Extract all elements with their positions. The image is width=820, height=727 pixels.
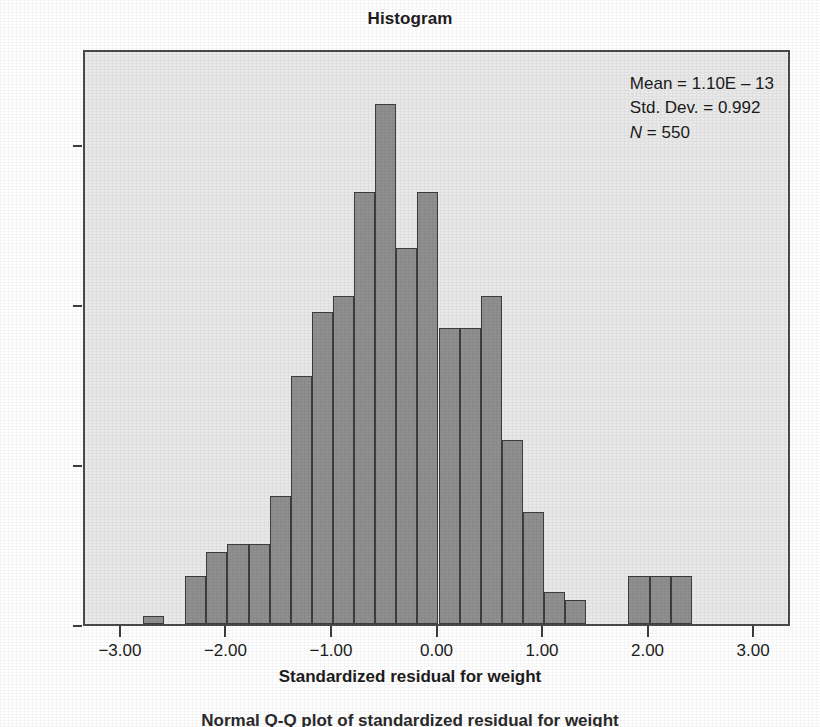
- x-tick-label: 1.00: [497, 641, 587, 661]
- x-tick-mark: [436, 626, 438, 637]
- histogram-bar: [565, 600, 586, 624]
- x-tick-mark: [330, 626, 332, 637]
- plot-frame: Mean = 1.10E – 13 Std. Dev. = 0.992 N = …: [83, 50, 790, 626]
- y-tick-mark: [73, 305, 82, 307]
- y-tick-mark: [73, 465, 82, 467]
- histogram-bar: [270, 496, 291, 624]
- x-tick-mark: [752, 626, 754, 637]
- x-tick-label: 0.00: [392, 641, 482, 661]
- statistics-annotation: Mean = 1.10E – 13 Std. Dev. = 0.992 N = …: [630, 72, 774, 145]
- x-tick-label: −2.00: [180, 641, 270, 661]
- histogram-bar: [249, 544, 270, 624]
- x-tick-mark: [119, 626, 121, 637]
- chart-title: Histogram: [0, 9, 820, 29]
- histogram-bar: [417, 192, 438, 624]
- histogram-bar: [439, 328, 460, 624]
- x-axis-label: Standardized residual for weight: [0, 667, 820, 687]
- x-tick-mark: [224, 626, 226, 637]
- histogram-bar: [227, 544, 248, 624]
- x-tick-label: −1.00: [286, 641, 376, 661]
- histogram-bar: [650, 576, 671, 624]
- x-tick-label: −3.00: [75, 641, 165, 661]
- histogram-bar: [291, 376, 312, 624]
- histogram-bar: [671, 576, 692, 624]
- y-tick-mark: [73, 145, 82, 147]
- x-tick-mark: [647, 626, 649, 637]
- stat-n-symbol: N: [630, 123, 642, 142]
- x-tick-mark: [541, 626, 543, 637]
- histogram-bar: [523, 512, 544, 624]
- stat-std-dev: Std. Dev. = 0.992: [630, 96, 774, 120]
- x-tick-label: 2.00: [603, 641, 693, 661]
- histogram-bar: [143, 616, 164, 624]
- figure-caption: Normal Q-Q plot of standardized residual…: [0, 711, 820, 727]
- stat-mean: Mean = 1.10E – 13: [630, 72, 774, 96]
- histogram-bar: [396, 248, 417, 624]
- histogram-bar: [628, 576, 649, 624]
- stat-n-value: = 550: [642, 123, 690, 142]
- histogram-bar: [481, 296, 502, 624]
- stat-n: N = 550: [630, 121, 774, 145]
- x-tick-label: 3.00: [708, 641, 798, 661]
- histogram-bar: [460, 328, 481, 624]
- histogram-bar: [312, 312, 333, 624]
- histogram-figure: Histogram Frequency 0204060 Mean = 1.10E…: [0, 0, 820, 727]
- y-axis-ticks: 0204060: [0, 0, 83, 727]
- histogram-bar: [502, 440, 523, 624]
- histogram-bar: [185, 576, 206, 624]
- histogram-bar: [375, 104, 396, 624]
- histogram-bar: [544, 592, 565, 624]
- histogram-bar: [206, 552, 227, 624]
- histogram-bar: [354, 192, 375, 624]
- histogram-bar: [333, 296, 354, 624]
